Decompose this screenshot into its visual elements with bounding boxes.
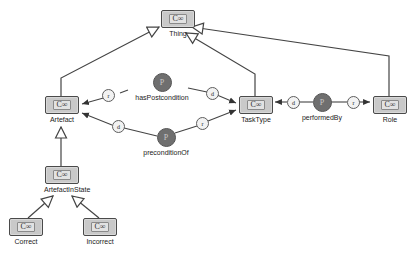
class-box[interactable]: C∞ [161, 10, 195, 28]
edge-marker-performedby-range: r [347, 96, 360, 109]
edge-correct-artefactinstate [28, 196, 53, 218]
class-box[interactable]: C∞ [45, 166, 79, 184]
property-label: preconditionOf [131, 148, 201, 157]
class-box[interactable]: C∞ [45, 96, 79, 114]
class-label: Correct [8, 237, 44, 246]
edge-marker-haspostcondition-range: r [102, 89, 115, 102]
class-box[interactable]: C∞ [373, 96, 407, 114]
owl-property-icon[interactable]: P [157, 128, 176, 147]
class-label: Role [372, 115, 408, 124]
property-node-preconditionof[interactable]: P preconditionOf [131, 128, 201, 157]
edge-marker-preconditionof-range: r [196, 117, 209, 130]
owl-class-icon: C∞ [53, 170, 70, 180]
edge-marker-preconditionof-domain: d [112, 120, 125, 133]
edge-layer [0, 0, 413, 261]
owl-class-icon: C∞ [169, 14, 186, 24]
class-node-incorrect[interactable]: C∞ Incorrect [82, 218, 118, 246]
class-node-artefact[interactable]: C∞ Artefact [44, 96, 80, 124]
class-label: Incorrect [82, 237, 118, 246]
property-label: performedBy [287, 113, 357, 122]
class-node-artefactinstate[interactable]: C∞ ArtefactInState [44, 166, 80, 194]
class-label: ArtefactInState [44, 185, 80, 194]
ontology-diagram-canvas: C∞ Thing C∞ Artefact C∞ TaskType C∞ Role… [0, 0, 413, 261]
edge-marker-haspostcondition-domain: d [206, 87, 219, 100]
class-label: Thing [160, 29, 196, 38]
property-label: hasPostcondition [127, 93, 197, 102]
class-label: Artefact [44, 115, 80, 124]
class-label: TaskType [238, 115, 274, 124]
class-box[interactable]: C∞ [9, 218, 43, 236]
class-box[interactable]: C∞ [83, 218, 117, 236]
edge-marker-performedby-domain: d [287, 96, 300, 109]
class-node-correct[interactable]: C∞ Correct [8, 218, 44, 246]
class-node-tasktype[interactable]: C∞ TaskType [238, 96, 274, 124]
class-node-role[interactable]: C∞ Role [372, 96, 408, 124]
owl-class-icon: C∞ [17, 222, 34, 232]
property-node-haspostcondition[interactable]: P hasPostcondition [127, 73, 197, 102]
edge-incorrect-artefactinstate [72, 196, 99, 218]
owl-property-icon[interactable]: P [313, 93, 332, 112]
owl-property-icon[interactable]: P [153, 73, 172, 92]
owl-class-icon: C∞ [53, 100, 70, 110]
owl-class-icon: C∞ [91, 222, 108, 232]
class-node-thing[interactable]: C∞ Thing [160, 10, 196, 38]
owl-class-icon: C∞ [247, 100, 264, 110]
class-box[interactable]: C∞ [239, 96, 273, 114]
edge-role-thing [192, 27, 389, 96]
owl-class-icon: C∞ [381, 100, 398, 110]
